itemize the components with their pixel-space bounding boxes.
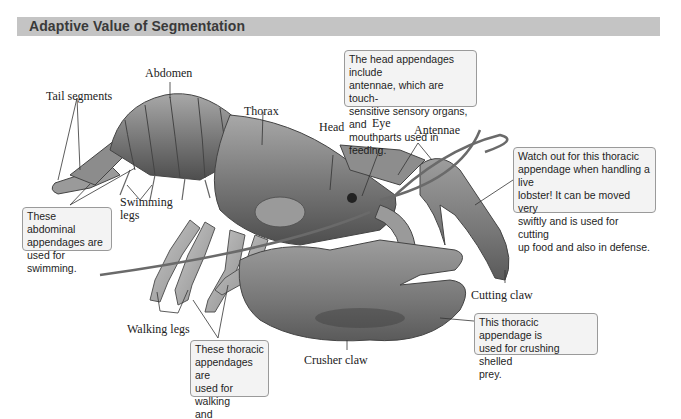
- label-swimming-legs: Swimming legs: [120, 196, 173, 222]
- callout-cutting-claw: Watch out for this thoracic appendage wh…: [513, 147, 656, 213]
- label-tail-segments: Tail segments: [46, 90, 112, 103]
- label-head: Head: [319, 121, 344, 134]
- label-eye: Eye: [372, 117, 391, 130]
- label-cutting-claw: Cutting claw: [471, 289, 533, 302]
- callout-crusher-claw: This thoracic appendage is used for crus…: [474, 313, 598, 355]
- callout-abdominal-appendages: These abdominal appendages are used for …: [22, 207, 112, 251]
- label-walking-legs: Walking legs: [127, 323, 190, 336]
- label-thorax: Thorax: [244, 105, 279, 118]
- label-crusher-claw: Crusher claw: [304, 354, 368, 367]
- callout-walking-appendages: These thoracic appendages are used for w…: [190, 340, 269, 397]
- callout-head-appendages: The head appendages include antennae, wh…: [344, 50, 477, 107]
- label-abdomen: Abdomen: [145, 67, 192, 80]
